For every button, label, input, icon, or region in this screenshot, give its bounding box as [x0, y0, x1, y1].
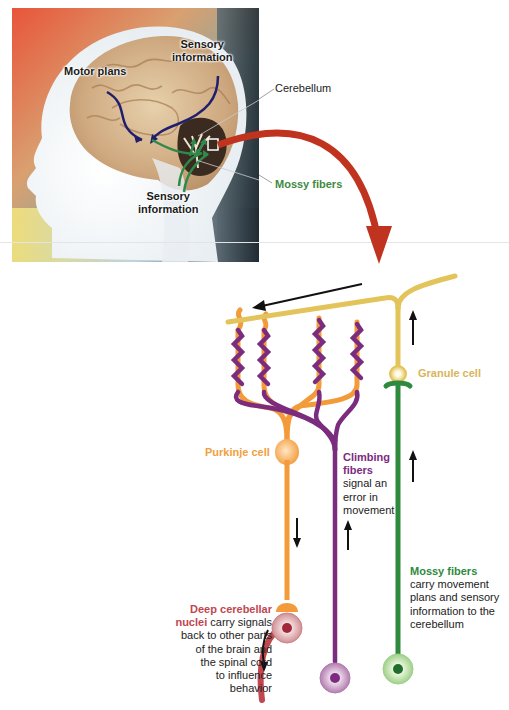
purkinje-cell-label: Purkinje cell — [205, 446, 270, 459]
granule-cell-label: Granule cell — [418, 367, 481, 380]
zoom-arrow — [218, 133, 392, 264]
mossy-fibers-label: Mossy fibers carry movement plans and se… — [410, 565, 499, 631]
deep-cerebellar-nuclei-label: Deep cerebellar nuclei carry signals bac… — [145, 603, 272, 695]
climbing-fibers-label: Climbing fibers signal an error in movem… — [343, 451, 394, 517]
cerebellum-callout: Cerebellum — [275, 82, 331, 95]
climbing-fiber-cell — [320, 663, 350, 693]
granule-cell-body — [390, 366, 406, 382]
purkinje-cell — [275, 439, 299, 612]
mossy-fibers-callout: Mossy fibers — [275, 178, 342, 191]
mossy-fiber — [383, 383, 413, 684]
